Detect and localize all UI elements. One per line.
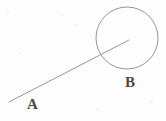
line-segment-shape [9, 40, 129, 102]
point-label-a: A [27, 97, 38, 112]
geometry-figure: A B [0, 0, 166, 121]
figure-canvas [0, 0, 166, 121]
circle-shape [96, 7, 158, 69]
point-label-b: B [125, 75, 135, 90]
